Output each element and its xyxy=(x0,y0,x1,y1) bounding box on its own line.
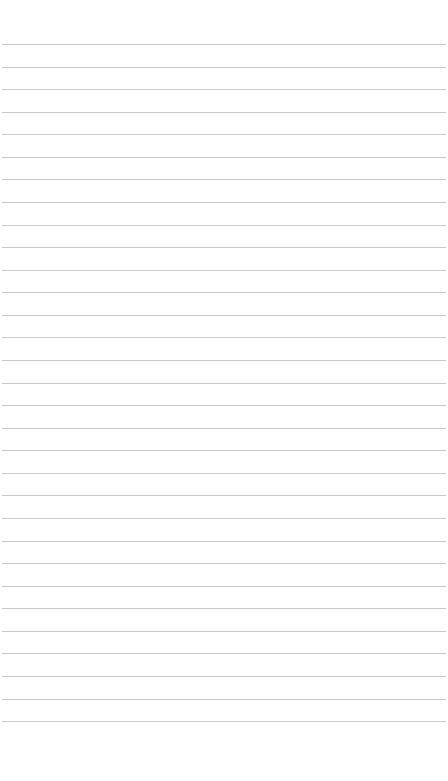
ruled-line xyxy=(2,225,446,226)
ruled-line xyxy=(2,337,446,338)
ruled-line xyxy=(2,428,446,429)
ruled-line xyxy=(2,134,446,135)
ruled-line xyxy=(2,676,446,677)
ruled-line xyxy=(2,518,446,519)
ruled-line xyxy=(2,292,446,293)
ruled-line xyxy=(2,67,446,68)
ruled-line xyxy=(2,631,446,632)
ruled-line xyxy=(2,112,446,113)
ruled-line xyxy=(2,608,446,609)
ruled-line xyxy=(2,179,446,180)
lined-paper-sheet xyxy=(0,0,448,781)
ruled-line xyxy=(2,247,446,248)
ruled-line xyxy=(2,721,446,722)
ruled-line xyxy=(2,541,446,542)
ruled-line xyxy=(2,44,446,45)
ruled-line xyxy=(2,653,446,654)
ruled-line xyxy=(2,405,446,406)
ruled-line xyxy=(2,563,446,564)
ruled-line xyxy=(2,89,446,90)
ruled-line xyxy=(2,473,446,474)
ruled-line xyxy=(2,270,446,271)
ruled-line xyxy=(2,360,446,361)
ruled-line xyxy=(2,202,446,203)
ruled-line xyxy=(2,586,446,587)
ruled-line xyxy=(2,699,446,700)
ruled-line xyxy=(2,450,446,451)
ruled-line xyxy=(2,157,446,158)
ruled-line xyxy=(2,315,446,316)
ruled-line xyxy=(2,495,446,496)
ruled-line xyxy=(2,383,446,384)
